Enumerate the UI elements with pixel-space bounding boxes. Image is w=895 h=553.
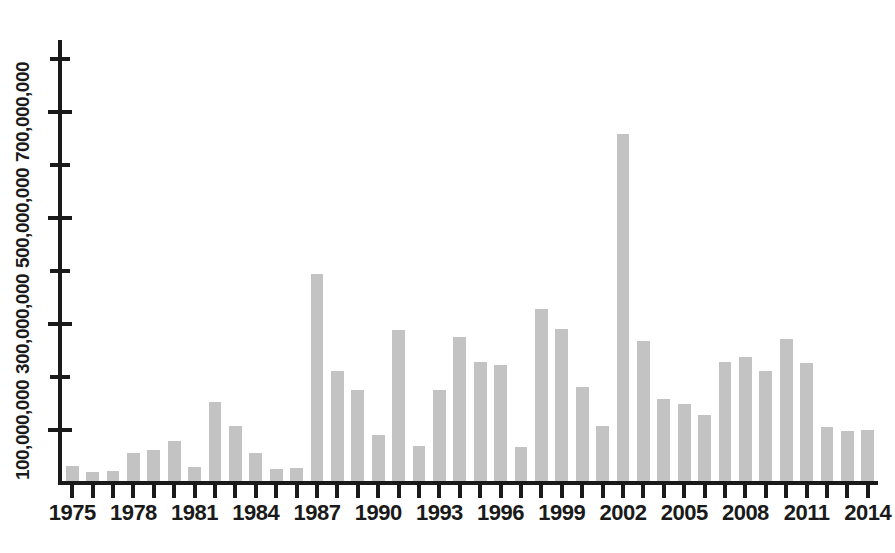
- bar: [413, 446, 426, 483]
- x-axis-tick-label: 1990: [355, 500, 402, 526]
- y-axis-minor-tick: [50, 269, 70, 273]
- x-axis-tick: [131, 485, 135, 498]
- bar: [657, 399, 670, 483]
- x-axis-tick: [335, 485, 339, 498]
- x-axis-tick: [866, 485, 870, 498]
- bar: [147, 450, 160, 483]
- y-axis-tick-label-text: 700,000,000: [12, 62, 34, 162]
- bar: [249, 453, 262, 483]
- x-axis-tick: [805, 485, 809, 498]
- x-axis-tick: [315, 485, 319, 498]
- x-axis-tick: [784, 485, 788, 498]
- bar: [698, 415, 711, 483]
- bar: [453, 337, 466, 483]
- x-axis-tick: [70, 485, 74, 498]
- bar: [841, 431, 854, 483]
- x-axis-tick: [682, 485, 686, 498]
- x-axis-tick-label: 2005: [661, 500, 708, 526]
- x-axis-tick: [274, 485, 278, 498]
- x-axis-tick: [519, 485, 523, 498]
- x-axis-tick-label: 1999: [538, 500, 585, 526]
- x-axis-tick-label: 2002: [600, 500, 647, 526]
- y-axis-line: [58, 40, 62, 484]
- bar: [596, 426, 609, 483]
- bar: [351, 390, 364, 483]
- y-axis-major-tick: [48, 110, 72, 114]
- x-axis-tick: [437, 485, 441, 498]
- x-axis-tick: [743, 485, 747, 498]
- x-axis-tick: [397, 485, 401, 498]
- x-axis-tick: [641, 485, 645, 498]
- x-axis-tick: [376, 485, 380, 498]
- x-axis-tick: [356, 485, 360, 498]
- bar: [209, 402, 222, 483]
- x-axis-tick: [458, 485, 462, 498]
- x-axis-tick: [764, 485, 768, 498]
- x-axis-tick: [601, 485, 605, 498]
- x-axis-tick-label: 2011: [784, 500, 830, 526]
- bar: [331, 371, 344, 483]
- x-axis-tick-label: 1996: [477, 500, 524, 526]
- y-axis-tick-label-text: 300,000,000: [12, 274, 34, 374]
- x-axis-tick-label: 2014: [844, 500, 891, 526]
- y-axis-tick-label-text: 100,000,000: [12, 380, 34, 480]
- bar: [678, 404, 691, 484]
- x-axis-tick: [91, 485, 95, 498]
- bar: [800, 363, 813, 483]
- x-axis-tick: [539, 485, 543, 498]
- x-axis-tick-label: 1984: [232, 500, 279, 526]
- x-axis-tick: [213, 485, 217, 498]
- bar: [637, 341, 650, 483]
- x-axis-tick-label: 1981: [171, 500, 218, 526]
- bar: [821, 427, 834, 483]
- x-axis-tick-label: 1993: [416, 500, 463, 526]
- bar: [433, 390, 446, 483]
- bar: [780, 339, 793, 483]
- y-axis-minor-tick: [50, 57, 70, 61]
- x-axis-tick: [723, 485, 727, 498]
- x-axis-tick-label: 1987: [294, 500, 341, 526]
- x-axis-tick: [580, 485, 584, 498]
- bar: [576, 387, 589, 483]
- x-axis-tick: [703, 485, 707, 498]
- x-axis-tick: [845, 485, 849, 498]
- x-axis-tick: [499, 485, 503, 498]
- y-axis-major-tick: [48, 322, 72, 326]
- bar: [617, 134, 630, 483]
- y-axis-tick-label-text: 500,000,000: [12, 168, 34, 268]
- bar: [739, 357, 752, 483]
- bar: [474, 362, 487, 483]
- bar: [168, 441, 181, 483]
- bar: [127, 453, 140, 483]
- x-axis-tick: [172, 485, 176, 498]
- bar: [555, 329, 568, 483]
- x-axis-tick: [111, 485, 115, 498]
- x-axis-tick: [478, 485, 482, 498]
- x-axis-tick: [825, 485, 829, 498]
- bar: [861, 430, 874, 483]
- bar: [372, 435, 385, 483]
- bar: [719, 362, 732, 483]
- bar: [311, 274, 324, 483]
- x-axis-tick: [193, 485, 197, 498]
- x-axis-tick-label: 2008: [722, 500, 769, 526]
- x-axis-tick: [621, 485, 625, 498]
- x-axis-line: [58, 481, 878, 485]
- x-axis-tick: [254, 485, 258, 498]
- x-axis-tick: [662, 485, 666, 498]
- x-axis-tick: [295, 485, 299, 498]
- y-axis-major-tick: [48, 216, 72, 220]
- bar: [494, 365, 507, 483]
- x-axis-tick: [233, 485, 237, 498]
- y-axis-minor-tick: [50, 163, 70, 167]
- y-axis-minor-tick: [50, 375, 70, 379]
- x-axis-tick-label: 1978: [110, 500, 157, 526]
- bar: [535, 309, 548, 483]
- bar: [392, 330, 405, 483]
- bar-chart: 100,000,000300,000,000500,000,000700,000…: [0, 0, 895, 553]
- x-axis-tick: [417, 485, 421, 498]
- x-axis-tick: [560, 485, 564, 498]
- bar: [515, 447, 528, 483]
- x-axis-tick: [152, 485, 156, 498]
- bar: [229, 426, 242, 483]
